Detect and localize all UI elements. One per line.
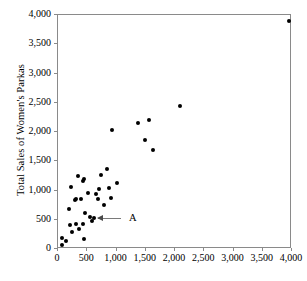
- data-point: [86, 191, 90, 195]
- data-point: [136, 121, 140, 125]
- x-tick-mark: [291, 248, 292, 251]
- data-point: [178, 104, 182, 108]
- data-point: [105, 167, 109, 171]
- data-point: [83, 211, 87, 215]
- data-point: [74, 222, 78, 226]
- data-point: [60, 243, 64, 247]
- data-point: [68, 223, 72, 227]
- data-point: [143, 138, 147, 142]
- y-tick-label: 4,000: [7, 9, 51, 19]
- y-tick-label: 0: [7, 243, 51, 253]
- x-tick-mark: [116, 248, 117, 251]
- x-tick-mark: [57, 248, 58, 251]
- y-tick-label: 3,000: [7, 68, 51, 78]
- data-point: [102, 203, 106, 207]
- data-point: [115, 181, 119, 185]
- data-point: [70, 230, 74, 234]
- data-point: [287, 19, 291, 23]
- y-tick-label: 2,000: [7, 126, 51, 136]
- data-point: [69, 185, 73, 189]
- data-point: [109, 196, 113, 200]
- x-tick-mark: [145, 248, 146, 251]
- data-point: [92, 216, 96, 220]
- x-tick-mark: [233, 248, 234, 251]
- data-point: [110, 128, 114, 132]
- data-point: [79, 197, 83, 201]
- y-tick-label: 500: [7, 214, 51, 224]
- x-tick-mark: [86, 248, 87, 251]
- data-point: [60, 236, 64, 240]
- x-tick-mark: [203, 248, 204, 251]
- data-point: [96, 197, 100, 201]
- annotation-label-a: A: [129, 212, 137, 223]
- data-point: [147, 118, 151, 122]
- data-point: [64, 239, 68, 243]
- y-tick-label: 3,500: [7, 38, 51, 48]
- x-tick-mark: [174, 248, 175, 251]
- data-point: [97, 187, 101, 191]
- data-point: [94, 192, 98, 196]
- data-point: [74, 197, 78, 201]
- scatter-plot-figure: Total Sales of Women's Parkas 05001,0001…: [0, 0, 307, 281]
- data-point: [107, 186, 111, 190]
- data-point: [82, 237, 86, 241]
- data-point: [67, 207, 71, 211]
- y-tick-label: 1,500: [7, 155, 51, 165]
- data-point: [77, 227, 81, 231]
- annotation-arrowhead-icon: [97, 215, 103, 221]
- data-point: [82, 177, 86, 181]
- y-tick-label: 2,500: [7, 97, 51, 107]
- x-tick-label: 4,000: [269, 253, 307, 263]
- data-point: [76, 174, 80, 178]
- data-point: [99, 173, 103, 177]
- x-tick-mark: [262, 248, 263, 251]
- plot-area: A: [57, 14, 291, 248]
- data-point: [151, 148, 155, 152]
- data-point: [81, 222, 85, 226]
- y-tick-label: 1,000: [7, 185, 51, 195]
